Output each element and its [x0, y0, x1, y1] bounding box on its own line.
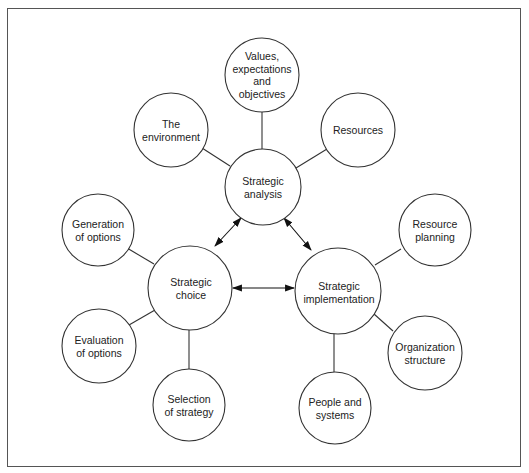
connector-line [202, 148, 230, 166]
node-strategic-choice-label: Strategic choice [170, 276, 211, 301]
node-organization-structure-label: Organization structure [395, 341, 455, 366]
node-resources-label: Resources [333, 124, 383, 137]
connector-line [296, 149, 327, 168]
connector-line [127, 248, 154, 264]
connector-line [375, 249, 401, 265]
node-generation-options-label: Generation of options [72, 218, 124, 243]
arrow-analysis-implementation [284, 218, 311, 250]
node-resource-planning-label: Resource planning [413, 218, 458, 243]
connector-line [129, 310, 155, 325]
arrow-analysis-choice [215, 218, 241, 246]
node-values-label: Values, expectations and objectives [233, 50, 292, 100]
node-evaluation-options-label: Evaluation of options [74, 334, 123, 359]
connector-line [374, 314, 393, 331]
node-selection-strategy-label: Selection of strategy [164, 393, 213, 418]
node-environment-label: The environment [142, 118, 200, 143]
node-people-systems-label: People and systems [308, 396, 361, 421]
node-strategic-analysis-label: Strategic analysis [242, 175, 283, 200]
node-strategic-implementation-label: Strategic implementation [303, 280, 374, 305]
